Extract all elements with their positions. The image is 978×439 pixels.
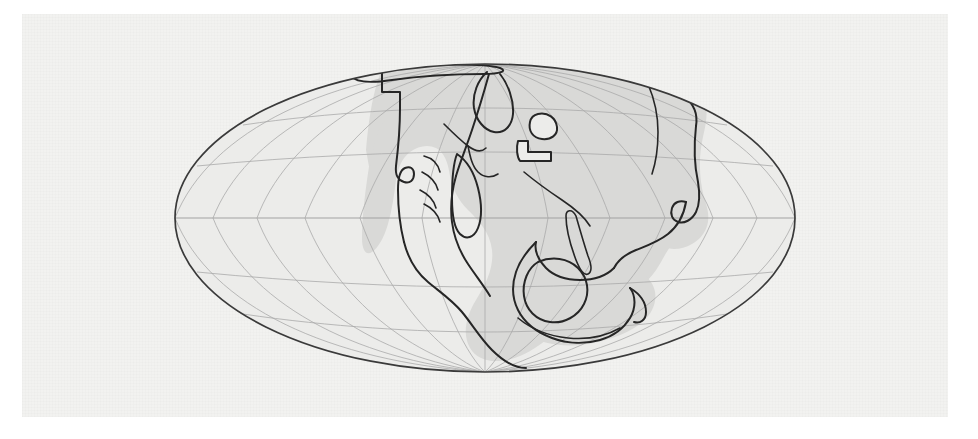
figure-root	[0, 0, 978, 439]
island-round	[530, 114, 558, 140]
paleogeographic-map	[0, 0, 978, 439]
